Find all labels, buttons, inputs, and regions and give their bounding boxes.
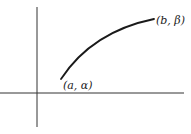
curve [61, 19, 154, 79]
start-point-label: (a, α) [63, 79, 93, 92]
end-point-label: (b, β) [156, 14, 185, 27]
diagram-canvas: (a, α) (b, β) [0, 0, 191, 134]
